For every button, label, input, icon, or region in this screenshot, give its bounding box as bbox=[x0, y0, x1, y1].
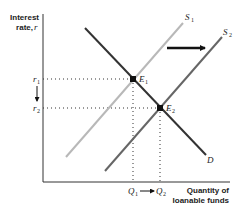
q1-tick-label: Q bbox=[128, 186, 135, 196]
s1-label-sub: 1 bbox=[191, 17, 194, 23]
supply-curve-s2 bbox=[105, 37, 222, 171]
x-axis-label-line1: Quantity of bbox=[187, 186, 230, 195]
e2-label: E bbox=[165, 103, 172, 113]
r2-tick-label-sub: 2 bbox=[37, 108, 40, 114]
equilibrium-point-e2 bbox=[157, 105, 163, 111]
q1-tick-label-sub: 1 bbox=[135, 191, 138, 197]
e1-label-sub: 1 bbox=[145, 79, 148, 85]
y-axis-variable: r bbox=[34, 22, 38, 32]
y-axis-label-line2: rate, bbox=[16, 23, 33, 32]
s2-label: S bbox=[223, 27, 228, 37]
e1-label: E bbox=[138, 74, 145, 84]
r1-tick-label-sub: 1 bbox=[37, 79, 40, 85]
q2-tick-label: Q bbox=[156, 186, 163, 196]
q2-tick-label-sub: 2 bbox=[163, 191, 166, 197]
loanable-funds-chart: Interest rate, r Quantity of loanable fu… bbox=[0, 0, 241, 212]
s1-label: S bbox=[185, 12, 190, 22]
y-axis-label-line1: Interest bbox=[10, 13, 39, 22]
e2-label-sub: 2 bbox=[172, 108, 175, 114]
x-axis-label-line2: loanable funds bbox=[173, 196, 230, 205]
s2-label-sub: 2 bbox=[229, 32, 232, 38]
d-label: D bbox=[206, 155, 214, 165]
supply-curve-s1 bbox=[66, 23, 183, 157]
equilibrium-point-e1 bbox=[130, 76, 136, 82]
